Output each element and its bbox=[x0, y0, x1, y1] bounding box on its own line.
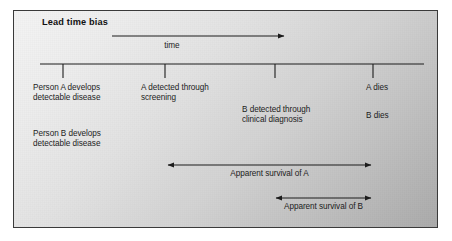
label-person-b-develops: Person B develops detectable disease bbox=[33, 129, 101, 149]
figure-title: Lead time bias bbox=[42, 17, 108, 27]
label-a-detected-screening: A detected through screening bbox=[141, 83, 209, 103]
label-apparent-survival-a: Apparent survival of A bbox=[167, 169, 372, 179]
label-a-dies: A dies bbox=[366, 83, 388, 93]
label-b-detected-clinical: B detected through clinical diagnosis bbox=[242, 105, 310, 125]
label-apparent-survival-b: Apparent survival of B bbox=[275, 202, 372, 212]
label-person-a-develops: Person A develops detectable disease bbox=[33, 83, 100, 103]
lead-time-bias-figure: Lead time bias bbox=[0, 0, 452, 241]
time-axis-label: time bbox=[0, 41, 398, 51]
label-b-dies: B dies bbox=[366, 111, 388, 121]
